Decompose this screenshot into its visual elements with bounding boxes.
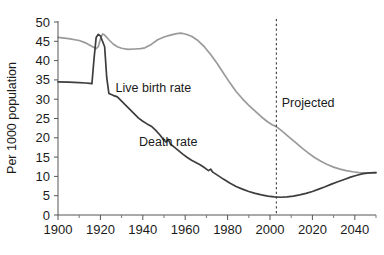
x-tick-label: 2000 [256, 222, 285, 237]
axes-layer [54, 21, 376, 220]
y-tick-label: 20 [36, 130, 50, 145]
birth-rate-label: Live birth rate [116, 81, 192, 95]
y-axis-title: Per 1000 population [5, 62, 19, 174]
x-tick-label: 2040 [340, 222, 369, 237]
x-tick-label: 1960 [171, 222, 200, 237]
series-line-death-rate [58, 34, 376, 197]
y-tick-label: 0 [43, 208, 50, 223]
y-tick-label: 50 [36, 15, 50, 30]
y-tick-label: 10 [36, 169, 50, 184]
y-tick-label: 40 [36, 53, 50, 68]
x-tick-label: 1940 [128, 222, 157, 237]
x-tick-label: 1980 [213, 222, 242, 237]
chart-plot-area: 0510152025303540455019001920194019601980… [0, 0, 384, 255]
y-tick-label: 5 [43, 188, 50, 203]
x-tick-label: 2020 [298, 222, 327, 237]
x-tick-label: 1900 [44, 222, 73, 237]
y-tick-label: 15 [36, 150, 50, 165]
y-tick-label: 35 [36, 72, 50, 87]
tick-label-layer: 0510152025303540455019001920194019601980… [36, 15, 370, 238]
annotation-layer: Live birth rateDeath rateProjected [116, 81, 335, 149]
y-tick-label: 25 [36, 111, 50, 126]
vital-rates-chart: 0510152025303540455019001920194019601980… [0, 0, 384, 255]
series-layer [58, 33, 376, 197]
y-tick-label: 45 [36, 34, 50, 49]
death-rate-label: Death rate [139, 135, 197, 149]
x-tick-label: 1920 [86, 222, 115, 237]
y-tick-label: 30 [36, 92, 50, 107]
projected-label: Projected [282, 96, 335, 110]
